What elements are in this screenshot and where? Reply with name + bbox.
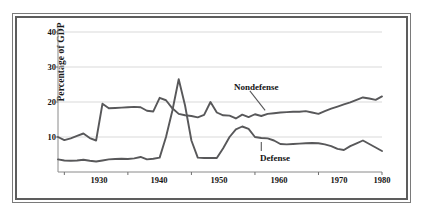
- leader-line-nondefense: [250, 91, 265, 111]
- series-line-nondefense: [58, 96, 382, 140]
- axis-ticks-group: [55, 32, 382, 175]
- chart-plot-container: Percentage of GDP 40 30 20 10 1930 1940 …: [20, 21, 403, 195]
- axis-lines-group: [58, 28, 382, 172]
- line-chart-svg: [20, 21, 403, 195]
- gridlines-group: [58, 32, 382, 137]
- series-line-defense: [58, 79, 382, 161]
- data-series-group: [58, 79, 382, 161]
- annotation-leaders-group: [250, 91, 265, 151]
- figure-root: Percentage of GDP 40 30 20 10 1930 1940 …: [0, 0, 424, 218]
